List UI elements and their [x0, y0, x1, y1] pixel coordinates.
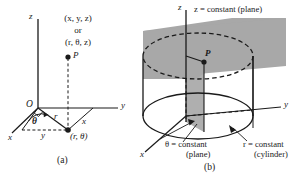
theta-constant-plane-label-line1: θ = constant [165, 140, 207, 149]
panel-b-x-axis-label: x [140, 150, 144, 159]
panel-a-radius-line [38, 108, 68, 130]
panel-b-graphics [143, 10, 286, 152]
r-constant-cylinder-label-line2: (cylinder) [254, 150, 288, 159]
panel-a-y-projection-label: y [41, 131, 45, 140]
cylindrical-coordinates-figure: z (x, y, z) or (r, θ, z) P O y x y x r θ… [0, 0, 299, 177]
panel-a-coordinate-text-line2: or [50, 26, 106, 35]
panel-b-point-p-dot [201, 59, 206, 64]
panel-a-foot-point-label: (r, θ) [70, 132, 87, 141]
panel-a-theta-label: θ [32, 117, 37, 127]
panel-a-coordinate-text-line1: (x, y, z) [50, 14, 106, 23]
panel-a-y-axis-label: y [121, 101, 125, 110]
r-constant-cylinder-label-line1: r = constant [243, 140, 284, 149]
panel-a-x-projection-label: x [82, 117, 86, 126]
panel-b-caption: (b) [204, 163, 215, 173]
panel-b-y-axis-label: y [284, 100, 288, 109]
panel-a-radius-label: r [54, 112, 58, 121]
panel-a-theta-arrow [44, 112, 49, 117]
panel-b-point-p-label: P [205, 49, 211, 58]
theta-constant-plane-label-line2: (plane) [186, 150, 210, 159]
panel-a-caption: (a) [57, 156, 68, 166]
panel-a-coordinate-text-line3: (r, θ, z) [50, 38, 106, 47]
z-constant-plane-shape-2 [143, 18, 286, 79]
panel-a-point-p-label: P [73, 51, 79, 60]
panel-a-projection-y-line [68, 108, 93, 130]
z-constant-plane-label: z = constant (plane) [194, 5, 262, 14]
r-label-arrowhead [229, 125, 236, 133]
panel-b-z-axis-label: z [178, 3, 182, 12]
panel-a-point-p-dot [65, 54, 70, 59]
panel-a-x-axis-label: x [8, 133, 12, 142]
panel-a-z-axis-label: z [29, 12, 33, 21]
panel-a-origin-label: O [26, 100, 33, 110]
